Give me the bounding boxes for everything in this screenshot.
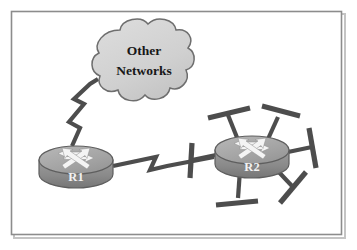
router-r2-label: R2 xyxy=(244,160,259,174)
network-topology-svg: Other Networks R1 xyxy=(0,0,357,250)
cloud-label-line2: Networks xyxy=(116,63,172,78)
router-r2[interactable]: R2 xyxy=(215,136,289,178)
router-r1[interactable]: R1 xyxy=(39,146,113,188)
router-r1-label: R1 xyxy=(68,170,83,184)
network-diagram-canvas: Other Networks R1 xyxy=(0,0,357,250)
cloud-label-line1: Other xyxy=(127,43,162,58)
